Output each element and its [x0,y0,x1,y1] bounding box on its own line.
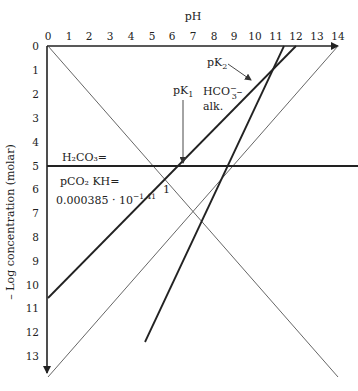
y-tick: 2 [32,88,39,100]
point-1-label: 1 [163,183,170,196]
x-tick-labels: 0 1 2 3 4 5 6 7 8 9 10 11 12 13 14 [45,30,345,42]
hco3-line [48,46,296,298]
x-tick: 14 [331,30,345,42]
y-tick: 6 [32,183,39,195]
y-tick: 1 [32,64,39,76]
y-tick: 3 [32,112,39,124]
y-tick: 7 [32,207,39,219]
x-tick: 4 [128,30,135,42]
pk2-label: pK2 [207,56,227,71]
x-tick: 8 [211,30,218,42]
x-tick: 13 [310,30,323,42]
x-tick: 11 [269,30,282,42]
pk2-arrow [228,64,251,80]
hco3-label: HCO−3– [203,84,243,101]
x-tick: 1 [66,30,73,42]
y-tick: 12 [26,326,39,338]
x-tick: 5 [149,30,156,42]
y-tick: 0 [32,40,39,52]
y-tick: 9 [32,255,39,267]
y-tick: 11 [26,302,39,314]
alk-label: alk. [203,100,223,113]
x-axis-label: pH [185,10,202,23]
x-tick: 7 [190,30,197,42]
pk1-label: pK1 [173,84,193,99]
x-tick: 3 [107,30,114,42]
x-tick: 12 [289,30,302,42]
x-tick: 9 [231,30,238,42]
y-tick: 5 [32,160,39,172]
x-tick: 6 [169,30,176,42]
y-tick: 10 [26,279,39,291]
y-tick: 8 [32,231,39,243]
y-tick-labels: 0 1 2 3 4 5 6 7 8 9 10 11 12 13 [26,40,40,362]
x-tick: 2 [86,30,93,42]
x-tick: 10 [248,30,261,42]
y-axis-label: – Log concentration (molar) [4,144,17,299]
h2co3-annotation-1: H₂CO₃= [62,151,107,164]
y-tick: 13 [26,350,39,362]
h2co3-annotation-2: pCO₂ KH= [60,175,119,188]
y-tick: 4 [32,136,39,148]
x-tick: 0 [45,30,52,42]
chart: pH 0 1 2 3 4 5 6 7 8 9 10 11 12 13 14 0 … [0,0,358,391]
